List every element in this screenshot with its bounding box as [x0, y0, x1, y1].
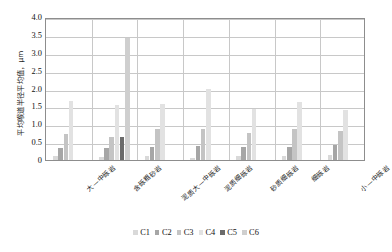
bar-c2 — [287, 147, 292, 160]
bar-c3 — [247, 133, 252, 160]
x-axis-tick-label: 含砾粗砂岩 — [130, 162, 163, 194]
bar-group — [92, 20, 138, 160]
bar-c4 — [160, 104, 165, 160]
x-axis-tick-label: 大—中砾岩 — [84, 162, 117, 193]
bar-c2 — [58, 148, 63, 161]
bar-c3 — [64, 134, 69, 160]
bar-c4 — [115, 105, 120, 160]
legend-swatch-icon — [242, 230, 247, 235]
bar-c4 — [343, 110, 348, 160]
bar-c1 — [282, 156, 287, 160]
y-axis-tick-label: 1.0 — [32, 121, 42, 129]
legend-label: C3 — [184, 228, 194, 237]
bar-group — [275, 20, 321, 160]
x-axis-tick-label: 泥质大—中砾岩 — [179, 162, 223, 203]
bar-group — [137, 20, 183, 160]
bar-c3 — [109, 137, 114, 160]
bar-c3 — [201, 129, 206, 160]
x-axis-tick-label: 细砾岩 — [309, 162, 332, 184]
bar-c3 — [338, 131, 343, 160]
bar-c3 — [155, 129, 160, 160]
bar-c2 — [150, 147, 155, 160]
bar-c1 — [236, 156, 241, 160]
legend-swatch-icon — [199, 230, 204, 235]
bar-group — [229, 20, 275, 160]
x-axis-tick-labels: 大—中砾岩含砾粗砂岩泥质大—中砾岩泥质细砾岩砂质细砾岩细砾岩小—中砾岩 — [45, 162, 365, 214]
bar-c4 — [297, 102, 302, 160]
y-axis-tick-label: 0 — [38, 157, 42, 165]
y-axis-tick-label: 1.5 — [32, 103, 42, 111]
legend-item-c2[interactable]: C2 — [155, 228, 172, 237]
legend-label: C5 — [227, 228, 237, 237]
bar-c1 — [99, 157, 104, 160]
legend-swatch-icon — [133, 230, 138, 235]
legend-item-c1[interactable]: C1 — [133, 228, 150, 237]
legend-label: C4 — [206, 228, 216, 237]
legend-label: C6 — [249, 228, 259, 237]
bar-c2 — [333, 145, 338, 160]
bar-group — [320, 20, 366, 160]
x-axis-tick-label: 砂质细砾岩 — [267, 162, 300, 194]
chart-legend: C1C2C3C4C5C6 — [0, 228, 392, 237]
legend-item-c4[interactable]: C4 — [199, 228, 216, 237]
bar-c2 — [241, 147, 246, 160]
y-axis-tick-label: 0.5 — [32, 139, 42, 147]
bar-c4 — [69, 101, 74, 160]
bar-c2 — [104, 148, 109, 160]
y-axis-tick-label: 2.0 — [32, 85, 42, 93]
y-axis-tick-label: 3.0 — [32, 50, 42, 58]
legend-swatch-icon — [177, 230, 182, 235]
bar-c3 — [292, 129, 297, 160]
legend-label: C2 — [162, 228, 172, 237]
y-axis-tick-label: 2.5 — [32, 67, 42, 75]
bar-c1 — [53, 156, 58, 160]
legend-swatch-icon — [220, 230, 225, 235]
bar-c6 — [125, 38, 130, 160]
x-axis-tick-label: 小—中砾岩 — [358, 162, 391, 193]
bar-c2 — [196, 146, 201, 160]
bar-c1 — [328, 155, 333, 160]
legend-item-c6[interactable]: C6 — [242, 228, 259, 237]
legend-item-c5[interactable]: C5 — [220, 228, 237, 237]
bar-c4 — [252, 109, 257, 160]
bar-c1 — [190, 158, 195, 160]
plot-area — [45, 18, 365, 161]
legend-item-c3[interactable]: C3 — [177, 228, 194, 237]
bar-c5 — [120, 137, 125, 160]
legend-swatch-icon — [155, 230, 160, 235]
x-axis-tick-label: 泥质细砾岩 — [221, 162, 254, 194]
bar-c4 — [206, 89, 211, 160]
y-axis-tick-label: 4.0 — [32, 14, 42, 22]
bar-c1 — [145, 156, 150, 160]
y-axis-tick-labels: 00.51.01.52.02.53.03.54.0 — [14, 18, 42, 161]
bar-chart: 平均喉道半径平均值，μm 00.51.01.52.02.53.03.54.0 大… — [0, 0, 392, 252]
y-axis-tick-label: 3.5 — [32, 32, 42, 40]
legend-label: C1 — [140, 228, 150, 237]
bar-group — [183, 20, 229, 160]
bar-group — [46, 20, 92, 160]
